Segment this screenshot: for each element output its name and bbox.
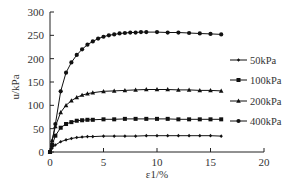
data-point [69, 120, 73, 124]
data-point [123, 134, 126, 138]
data-point [144, 30, 148, 34]
data-point [155, 117, 159, 121]
data-point [59, 140, 62, 144]
data-point [134, 117, 138, 121]
data-point [59, 89, 63, 93]
data-point [53, 122, 57, 126]
legend-marker-square-icon [237, 78, 241, 82]
data-point [81, 135, 84, 139]
data-point [155, 30, 159, 34]
data-point [75, 53, 79, 57]
data-point [91, 39, 95, 43]
y-tick-label: 200 [28, 53, 45, 65]
data-point [112, 117, 116, 121]
data-point [198, 31, 202, 35]
data-point [209, 134, 212, 138]
data-point [85, 118, 89, 122]
y-tick-label: 100 [28, 99, 45, 111]
data-point [75, 136, 78, 140]
x-axis-title: ε1/% [146, 168, 168, 180]
data-point [219, 32, 223, 36]
data-point [117, 31, 121, 35]
x-tick-label: 0 [47, 156, 53, 168]
y-axis-title: u/kPa [9, 74, 21, 99]
x-tick-label: 5 [101, 156, 107, 168]
data-point [128, 30, 132, 34]
data-point [85, 43, 89, 47]
legend-label: 200kPa [250, 96, 282, 107]
x-tick-label: 20 [259, 156, 271, 168]
data-point [48, 150, 52, 154]
data-point [113, 134, 116, 138]
series-line-400kPa [50, 32, 221, 152]
data-point [123, 31, 127, 35]
data-point [144, 117, 148, 121]
data-point [166, 117, 170, 121]
y-tick-label: 150 [28, 76, 45, 88]
data-point [198, 134, 201, 138]
y-tick-label: 300 [28, 6, 45, 18]
x-tick-label: 15 [205, 156, 217, 168]
data-point [208, 32, 212, 36]
data-point [177, 134, 180, 138]
y-tick-label: 0 [39, 146, 45, 158]
data-point [80, 47, 84, 51]
data-point [102, 117, 106, 121]
x-tick-label: 10 [152, 156, 164, 168]
data-point [219, 117, 223, 121]
data-point [91, 118, 95, 122]
data-point [176, 117, 180, 121]
data-point [64, 138, 67, 142]
data-point [134, 134, 137, 138]
legend-marker-circle-icon [236, 119, 240, 123]
data-point [70, 137, 73, 141]
legend-label: 400kPa [250, 116, 282, 127]
legend-label: 50kPa [250, 55, 277, 66]
data-point [59, 126, 63, 130]
data-point [80, 118, 84, 122]
data-point [220, 134, 223, 138]
data-point [123, 117, 127, 121]
data-point [176, 30, 180, 34]
data-point [198, 117, 202, 121]
data-point [112, 32, 116, 36]
y-tick-label: 50 [33, 123, 45, 135]
data-point [209, 117, 213, 121]
data-point [187, 31, 191, 35]
data-point [101, 35, 105, 39]
data-point [166, 134, 169, 138]
chart: 05010015020025030005101520u/kPaε1/%50kPa… [0, 0, 299, 180]
data-point [187, 117, 191, 121]
data-point [96, 37, 100, 41]
data-point [91, 135, 94, 139]
legend-marker-diamond-icon [237, 58, 240, 62]
legend-label: 100kPa [250, 75, 282, 86]
data-point [139, 30, 143, 34]
data-point [64, 71, 68, 75]
data-point [166, 30, 170, 34]
data-point [134, 30, 138, 34]
data-point [188, 134, 191, 138]
data-point [69, 60, 73, 64]
y-tick-label: 250 [28, 29, 45, 41]
data-point [155, 134, 158, 138]
data-point [64, 122, 68, 126]
data-point [75, 119, 79, 123]
data-point [69, 98, 74, 102]
data-point [107, 33, 111, 37]
data-point [102, 134, 105, 138]
data-point [86, 135, 89, 139]
data-point [145, 134, 148, 138]
series-line-50kPa [50, 136, 221, 152]
